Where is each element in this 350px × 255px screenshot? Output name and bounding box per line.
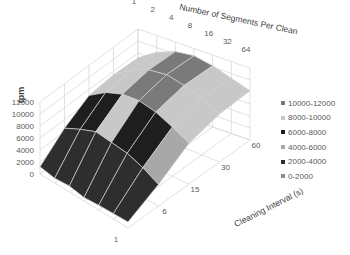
x-tick-label: 16 [204,29,213,38]
surface-chart: 020004000600080001000012000tpm1248163264… [0,0,350,255]
z-axis-title: Cleaning Interval (s) [232,186,304,230]
y-tick-label: 0 [30,170,35,179]
legend-swatch [281,101,285,105]
legend-swatch [281,160,285,164]
y-tick-label: 4000 [16,146,34,155]
x-tick-label: 1 [132,0,137,6]
legend-swatch [281,145,285,149]
legend-item: 0-2000 [281,169,335,184]
legend-swatch [281,116,285,120]
x-axis-title: Number of Segments Per Clean [179,2,299,37]
z-tick-label: 6 [162,207,167,216]
legend-label: 10000-12000 [288,99,335,108]
legend-item: 4000-6000 [281,140,335,155]
z-tick-label: 1 [114,235,119,244]
legend-label: 0-2000 [288,172,313,181]
legend-label: 6000-8000 [288,128,326,137]
legend-item: 6000-8000 [281,125,335,140]
legend-item: 2000-4000 [281,154,335,169]
legend-label: 2000-4000 [288,157,326,166]
y-tick-label: 10000 [12,110,35,119]
x-tick-label: 2 [150,5,155,14]
y-axis-title: tpm [16,87,26,104]
x-tick-label: 8 [188,21,193,30]
z-tick-label: 30 [221,163,230,172]
x-tick-label: 4 [169,13,174,22]
x-tick-label: 64 [242,45,251,54]
y-tick-label: 6000 [16,134,34,143]
legend-label: 4000-6000 [288,143,326,152]
x-tick-label: 32 [223,37,232,46]
legend-item: 10000-12000 [281,96,335,111]
y-tick-label: 8000 [16,122,34,131]
legend-item: 8000-10000 [281,111,335,126]
z-tick-label: 15 [191,185,200,194]
legend-swatch [281,174,285,178]
legend-label: 8000-10000 [288,113,331,122]
y-tick-label: 2000 [16,158,34,167]
legend: 10000-120008000-100006000-80004000-60002… [281,96,335,184]
z-tick-label: 60 [252,141,261,150]
legend-swatch [281,130,285,134]
